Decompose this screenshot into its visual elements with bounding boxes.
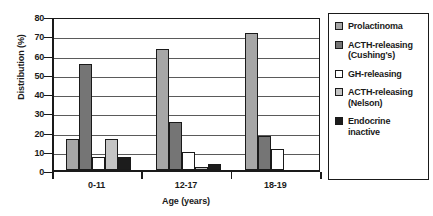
legend-swatch-icon: [335, 117, 343, 125]
legend-label: Prolactinoma: [348, 21, 403, 32]
x-axis-category-label: 0-11: [52, 180, 142, 190]
y-axis-tick-label: 60: [4, 51, 44, 61]
legend-swatch-icon: [335, 41, 343, 49]
bar: [66, 139, 79, 170]
y-axis-tick-label: 30: [4, 109, 44, 119]
y-axis-tick: [44, 95, 52, 96]
legend-item[interactable]: Prolactinoma: [335, 21, 428, 32]
bar-chart-figure: Distribution (%) 01020304050607080 0-111…: [0, 0, 433, 216]
y-axis-tick: [44, 18, 52, 19]
legend-item[interactable]: GH-releasing: [335, 69, 428, 80]
bar: [245, 33, 258, 170]
legend-label: Endocrine inactive: [348, 116, 390, 137]
bars-container: [54, 19, 319, 170]
y-axis-tick-label: 40: [4, 90, 44, 100]
y-axis-tick-label: 80: [4, 13, 44, 23]
y-axis-tick-label: 0: [4, 167, 44, 177]
y-axis-tick: [44, 57, 52, 58]
bar: [271, 149, 284, 170]
legend-label: GH-releasing: [348, 69, 402, 80]
bar: [79, 64, 92, 170]
y-axis-tick: [44, 76, 52, 77]
legend-swatch-icon: [335, 70, 343, 78]
y-axis-tick: [44, 153, 52, 154]
bar: [118, 157, 131, 170]
legend-swatch-icon: [335, 88, 343, 96]
bar: [208, 164, 221, 170]
y-axis-tick-label: 10: [4, 147, 44, 157]
x-axis-tick: [141, 172, 143, 179]
x-axis-category-label: 12-17: [141, 180, 231, 190]
y-axis-tick-label: 20: [4, 128, 44, 138]
legend-item[interactable]: ACTH-releasing (Nelson): [335, 87, 428, 108]
legend-label: ACTH-releasing (Cushing's): [348, 40, 413, 61]
x-axis-tick: [52, 172, 54, 179]
legend-item[interactable]: Endocrine inactive: [335, 116, 428, 137]
y-axis-tick-label: 50: [4, 70, 44, 80]
y-axis-tick-label: 70: [4, 32, 44, 42]
legend-label: ACTH-releasing (Nelson): [348, 87, 413, 108]
x-axis-category-label: 18-19: [230, 180, 320, 190]
bar: [92, 157, 105, 170]
x-axis-title: Age (years): [52, 196, 320, 206]
bar: [258, 136, 271, 170]
legend-item[interactable]: ACTH-releasing (Cushing's): [335, 40, 428, 61]
plot-area: [52, 18, 320, 172]
y-axis-tick: [44, 134, 52, 135]
x-axis-tick: [320, 172, 322, 179]
bar: [156, 49, 169, 170]
bar: [195, 167, 208, 170]
chart-legend: ProlactinomaACTH-releasing (Cushing's)GH…: [328, 13, 429, 180]
x-axis-tick: [231, 172, 233, 179]
bar: [105, 139, 118, 170]
y-axis-tick: [44, 37, 52, 38]
y-axis-tick: [44, 172, 52, 173]
y-axis-tick: [44, 114, 52, 115]
bar: [169, 122, 182, 170]
legend-swatch-icon: [335, 22, 343, 30]
bar: [182, 152, 195, 170]
